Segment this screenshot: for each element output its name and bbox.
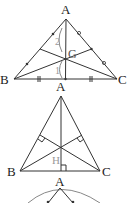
- vertex-label-a: A: [55, 174, 65, 189]
- vertex-label-b: B: [0, 72, 9, 87]
- vertex-label-c: C: [118, 72, 127, 87]
- centroid-triangle: A B C G 2 1: [0, 2, 127, 87]
- orthocenter-triangle: A B C H: [7, 79, 111, 179]
- orthocenter-label: H: [52, 154, 60, 166]
- centroid-label: G: [68, 47, 77, 61]
- ratio-label-1: 1: [55, 65, 60, 76]
- partial-figure: A: [28, 174, 100, 203]
- vertex-label-c: C: [102, 164, 111, 179]
- geometry-diagram: A B C G 2 1 A B C H A: [0, 0, 127, 203]
- vertex-label-a: A: [56, 79, 66, 94]
- vertex-label-a: A: [61, 2, 71, 17]
- vertex-label-b: B: [7, 164, 16, 179]
- ratio-label-2: 2: [55, 36, 60, 47]
